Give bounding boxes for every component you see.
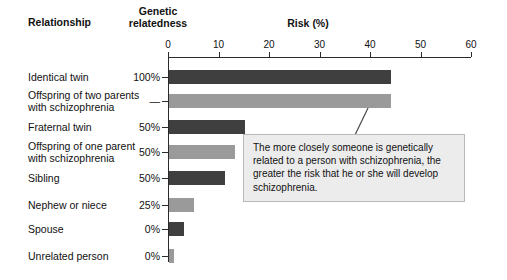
axis-tick-mark-0 — [168, 52, 169, 57]
row-genetic-relatedness-value: — — [112, 95, 160, 107]
row-axis-tick — [162, 256, 168, 257]
chart-bar — [169, 120, 245, 134]
chart-bar — [169, 222, 184, 236]
axis-tick-mark-50 — [421, 52, 422, 57]
axis-tick-mark-60 — [471, 52, 472, 57]
row-axis-tick — [162, 229, 168, 230]
row-axis-tick — [162, 127, 168, 128]
row-genetic-relatedness-value: 0% — [112, 250, 160, 262]
row-axis-tick — [162, 101, 168, 102]
chart-bar — [169, 171, 225, 185]
chart-row: Unrelated person0% — [0, 243, 507, 269]
chart-bar — [169, 145, 235, 159]
row-genetic-relatedness-value: 50% — [112, 172, 160, 184]
axis-tick-label-0: 0 — [153, 40, 183, 50]
schizophrenia-risk-chart: Relationship Genetic relatedness Risk (%… — [0, 0, 507, 280]
row-genetic-relatedness-value: 25% — [112, 199, 160, 211]
axis-tick-label-20: 20 — [254, 40, 284, 50]
row-axis-tick — [162, 205, 168, 206]
chart-bar — [169, 70, 391, 84]
row-axis-tick — [162, 152, 168, 153]
callout-annotation: The more closely someone is genetically … — [243, 134, 465, 202]
axis-tick-mark-40 — [370, 52, 371, 57]
axis-tick-label-10: 10 — [204, 40, 234, 50]
axis-tick-label-60: 60 — [456, 40, 486, 50]
row-axis-tick — [162, 77, 168, 78]
axis-tick-label-30: 30 — [305, 40, 335, 50]
chart-bar — [169, 94, 391, 108]
axis-tick-mark-30 — [320, 52, 321, 57]
axis-tick-mark-20 — [269, 52, 270, 57]
row-genetic-relatedness-value: 50% — [112, 146, 160, 158]
row-genetic-relatedness-value: 0% — [112, 223, 160, 235]
chart-row: Spouse0% — [0, 216, 507, 242]
chart-row: Identical twin100% — [0, 64, 507, 90]
axis-line-horizontal — [168, 57, 471, 58]
row-genetic-relatedness-value: 50% — [112, 121, 160, 133]
callout-leader-line — [352, 108, 370, 136]
row-axis-tick — [162, 178, 168, 179]
axis-tick-mark-10 — [219, 52, 220, 57]
row-genetic-relatedness-value: 100% — [112, 71, 160, 83]
axis-tick-label-50: 50 — [406, 40, 436, 50]
chart-bar — [169, 198, 194, 212]
axis-tick-label-40: 40 — [355, 40, 385, 50]
chart-bar — [169, 249, 174, 263]
chart-row: Offspring of two parentswith schizophren… — [0, 88, 507, 114]
